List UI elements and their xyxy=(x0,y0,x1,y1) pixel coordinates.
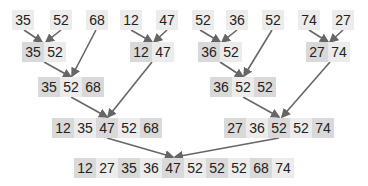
array-cell: 52 xyxy=(118,118,140,138)
array-cell: 52 xyxy=(60,77,82,97)
array-cell: 12 xyxy=(52,118,74,138)
array-cell: 52 xyxy=(206,158,228,178)
array-cell: 68 xyxy=(250,158,272,178)
array-cell: 27 xyxy=(306,42,328,62)
merge-arrow xyxy=(108,62,152,117)
merge-arrow xyxy=(71,97,107,117)
array-cell: 35 xyxy=(38,77,60,97)
array-cell: 74 xyxy=(272,158,294,178)
array-cell: 52 xyxy=(44,42,66,62)
array-cell: 12 xyxy=(74,158,96,178)
array-cell: 12 xyxy=(120,10,142,30)
merge-arrow xyxy=(72,30,96,76)
array-cell: 27 xyxy=(332,10,354,30)
array-cell: 36 xyxy=(246,118,268,138)
merge-arrow xyxy=(46,30,61,42)
array-cell: 68 xyxy=(140,118,162,138)
merge-arrow xyxy=(222,30,237,42)
array-cell: 52 xyxy=(50,10,72,30)
array-cell: 47 xyxy=(96,118,118,138)
array-cell: 52 xyxy=(254,77,276,97)
array-cell: 74 xyxy=(298,10,320,30)
merge-arrow xyxy=(200,30,220,42)
array-cell: 36 xyxy=(140,158,162,178)
merge-arrow xyxy=(244,30,272,76)
array-cell: 36 xyxy=(226,10,248,30)
merge-arrow xyxy=(220,62,243,77)
array-cell: 68 xyxy=(86,10,108,30)
array-cell: 35 xyxy=(118,158,140,178)
array-cell: 36 xyxy=(198,42,220,62)
merge-arrow xyxy=(44,62,71,77)
array-cell: 47 xyxy=(156,10,178,30)
array-cell: 27 xyxy=(96,158,118,178)
array-cell: 52 xyxy=(262,10,284,30)
array-cell: 47 xyxy=(152,42,174,62)
array-cell: 74 xyxy=(328,42,350,62)
merge-arrow xyxy=(24,30,42,42)
merge-arrow xyxy=(131,30,152,42)
array-cell: 27 xyxy=(224,118,246,138)
array-cell: 52 xyxy=(290,118,312,138)
array-cell: 52 xyxy=(192,10,214,30)
merge-arrow xyxy=(282,62,330,117)
merge-arrow xyxy=(309,30,328,42)
array-cell: 74 xyxy=(312,118,334,138)
array-cell: 52 xyxy=(184,158,206,178)
array-cell: 52 xyxy=(268,118,290,138)
merge-arrow xyxy=(175,138,279,157)
array-cell: 36 xyxy=(210,77,232,97)
array-cell: 12 xyxy=(130,42,152,62)
merge-arrow xyxy=(107,138,173,157)
merge-arrow xyxy=(243,97,279,117)
merge-arrow xyxy=(154,30,167,42)
array-cell: 35 xyxy=(12,10,34,30)
merge-arrow xyxy=(330,30,343,42)
array-cell: 68 xyxy=(82,77,104,97)
array-cell: 35 xyxy=(22,42,44,62)
array-cell: 52 xyxy=(232,77,254,97)
array-cell: 47 xyxy=(162,158,184,178)
merge-sort-diagram: 3552681247523652742735521247365227743552… xyxy=(0,0,368,186)
array-cell: 52 xyxy=(220,42,242,62)
array-cell: 52 xyxy=(228,158,250,178)
array-cell: 35 xyxy=(74,118,96,138)
